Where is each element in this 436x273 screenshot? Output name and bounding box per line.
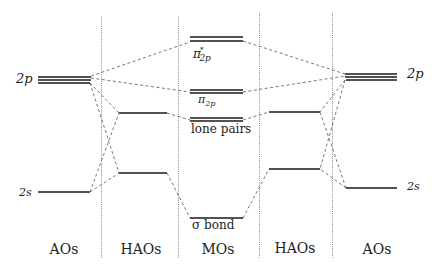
pi-star-level <box>190 37 243 41</box>
right-2p-label: 2p <box>406 66 424 81</box>
left-2p-level <box>38 77 91 83</box>
lone-pairs-level <box>190 118 243 121</box>
column-label-haos-left: HAOs <box>121 241 162 257</box>
column-labels: AOs HAOs MOs HAOs AOs <box>49 240 392 257</box>
mo-diagram: 2p 2s 2p 2s π*2p π2p lone pairs σ bond A… <box>0 0 436 273</box>
right-2s-label: 2s <box>406 180 420 193</box>
pi-label: π2p <box>197 93 215 108</box>
column-label-aos-right: AOs <box>362 241 392 257</box>
right-2p-level <box>345 74 397 80</box>
left-2p-label: 2p <box>15 71 33 86</box>
column-label-aos-left: AOs <box>49 241 79 257</box>
lone-pairs-label: lone pairs <box>191 122 251 136</box>
column-label-mos: MOs <box>202 241 235 257</box>
column-label-haos-right: HAOs <box>275 240 316 256</box>
pi-star-label: π*2p <box>192 46 211 63</box>
left-2s-label: 2s <box>18 186 32 199</box>
sigma-bond-label: σ bond <box>192 218 235 232</box>
